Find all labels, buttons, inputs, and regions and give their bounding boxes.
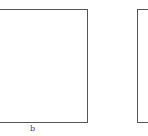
panel-b-caption: b <box>30 125 35 133</box>
figure-panel-b <box>0 9 88 123</box>
figure-panel-partial <box>137 9 148 123</box>
